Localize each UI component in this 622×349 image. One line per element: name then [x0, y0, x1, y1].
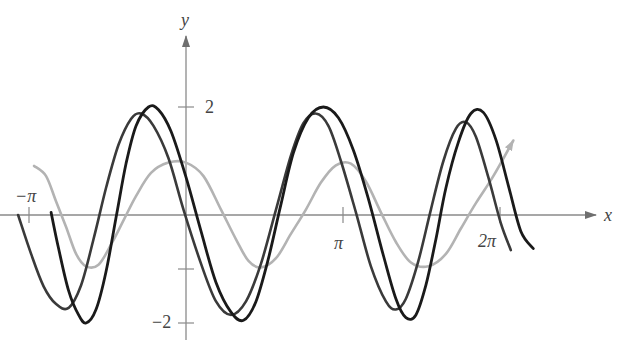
x-tick-label-neg-pi: −π: [15, 187, 36, 205]
axes: [0, 36, 596, 340]
x-tick-label-2pi: 2π: [478, 232, 496, 250]
x-axis-label: x: [604, 206, 612, 224]
x-tick-label-pi: π: [334, 234, 343, 252]
y-axis-label: y: [181, 11, 189, 29]
y-tick-label-neg2: −2: [152, 313, 171, 331]
series-medium-dark-curve: [18, 113, 511, 315]
y-tick-label-2: 2: [205, 98, 214, 116]
plot-area: [0, 0, 622, 349]
